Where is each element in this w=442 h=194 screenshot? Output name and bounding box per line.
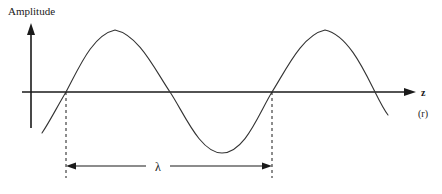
wave-diagram-canvas: Amplitude z (r) λ [0, 0, 442, 194]
x-axis [22, 88, 416, 96]
amplitude-axis-label: Amplitude [8, 5, 55, 17]
arrow-right-icon [262, 163, 272, 170]
arrow-left-icon [66, 163, 76, 170]
wavelength-guides [66, 92, 272, 178]
y-axis [27, 23, 35, 128]
z-axis-label: z [421, 87, 426, 98]
wave-diagram-figure: Amplitude z (r) λ [0, 0, 442, 194]
wavelength-dimension-line [66, 163, 272, 170]
arrow-up-icon [27, 23, 35, 35]
wavelength-label: λ [155, 160, 161, 174]
arrow-right-icon [404, 88, 416, 96]
r-axis-label: (r) [418, 108, 428, 120]
